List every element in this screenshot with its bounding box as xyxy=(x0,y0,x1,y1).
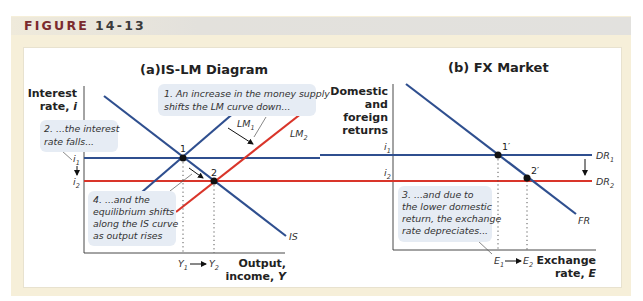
panel-b-x-axis-label-line1: Exchange xyxy=(536,254,596,267)
callout-2-pointer xyxy=(62,151,72,160)
fx-equilibrium-point-2 xyxy=(524,175,531,182)
figure-diagrams: (a)IS-LM Diagram Interest rate, i LM1 LM… xyxy=(0,0,643,301)
panel-a-x-axis-label-line2: income, Y xyxy=(225,270,287,283)
equilibrium-point-2 xyxy=(211,178,218,185)
svg-text:the lower domestic: the lower domestic xyxy=(402,201,493,212)
fr-label: FR xyxy=(578,215,590,226)
svg-text:4. ...and the: 4. ...and the xyxy=(93,194,150,205)
svg-text:along the IS curve: along the IS curve xyxy=(93,218,179,229)
equilibrium-point-1 xyxy=(180,155,187,162)
panel-a-y-axis-label-line2: rate, i xyxy=(40,100,78,113)
callout-1-pointer xyxy=(254,117,266,137)
svg-text:return, the exchange: return, the exchange xyxy=(402,213,501,224)
svg-text:as output rises: as output rises xyxy=(93,230,163,241)
callout-3: 3. ...and due to the lower domestic retu… xyxy=(398,186,501,242)
panel-a-is-lm: (a)IS-LM Diagram Interest rate, i LM1 LM… xyxy=(28,62,331,283)
fx-point-1-label: 1′ xyxy=(502,141,510,152)
panel-a-y1-label: Y1 xyxy=(178,258,188,272)
panel-b-i1-label: i1 xyxy=(384,141,391,155)
panel-a-y2-label: Y2 xyxy=(209,258,219,272)
callout-4: 4. ...and the equilibrium shifts along t… xyxy=(88,191,179,246)
lm2-label: LM2 xyxy=(290,128,308,142)
point-1-label: 1 xyxy=(180,143,186,154)
panel-b-e1-label: E1 xyxy=(494,255,504,269)
panel-b-y-axis-label-line1: Domestic xyxy=(330,85,388,98)
panel-b-y-axis-label-line3: foreign xyxy=(343,111,388,124)
panel-a-i1-label: i1 xyxy=(73,153,80,167)
panel-b-e2-label: E2 xyxy=(523,255,533,269)
lm1-curve xyxy=(142,111,236,192)
svg-text:rate depreciates...: rate depreciates... xyxy=(402,225,488,236)
fx-equilibrium-point-1 xyxy=(495,152,502,159)
dr1-label: DR1 xyxy=(596,150,614,164)
callout-3-pointer xyxy=(478,241,492,254)
svg-text:shifts the LM curve down...: shifts the LM curve down... xyxy=(164,101,290,112)
panel-b-y-axis-label-line4: returns xyxy=(342,124,388,137)
panel-b-x-axis-label-line2: rate, E xyxy=(555,267,597,280)
panel-b-fx-market: (b) FX Market Domestic and foreign retur… xyxy=(320,60,614,280)
callout-2: 2. ...the interest rate falls... xyxy=(40,120,120,152)
panel-a-title: (a)IS-LM Diagram xyxy=(140,62,268,77)
svg-text:3. ...and due to: 3. ...and due to xyxy=(402,189,474,200)
point-2-label: 2 xyxy=(211,167,217,178)
lm1-label: LM1 xyxy=(237,118,255,132)
svg-text:equilibrium shifts: equilibrium shifts xyxy=(93,206,174,217)
is-label: IS xyxy=(289,231,298,242)
svg-text:rate falls...: rate falls... xyxy=(44,136,94,147)
svg-text:1. An increase in the money su: 1. An increase in the money supply xyxy=(164,88,330,99)
panel-b-title: (b) FX Market xyxy=(448,60,549,75)
lm-shift-arrow xyxy=(228,128,253,144)
fx-point-2-label: 2′ xyxy=(531,165,539,176)
panel-a-y-axis-label-line1: Interest xyxy=(28,87,77,100)
panel-a-i2-label: i2 xyxy=(73,176,80,190)
dr2-label: DR2 xyxy=(596,176,614,190)
panel-b-y-axis-label-line2: and xyxy=(365,98,388,111)
panel-b-i2-label: i2 xyxy=(384,167,391,181)
svg-text:2. ...the interest: 2. ...the interest xyxy=(44,123,120,134)
panel-a-x-axis-label-line1: Output, xyxy=(238,257,286,270)
callout-1: 1. An increase in the money supply shift… xyxy=(158,84,330,116)
callout-4-pointer xyxy=(170,174,192,191)
